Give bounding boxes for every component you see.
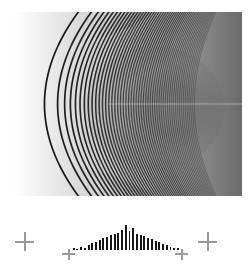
- spectrum-bar: [106, 237, 108, 250]
- moire-ring-artifact: [85, 46, 225, 170]
- spectrum-bar: [95, 242, 97, 250]
- spectrum-bar-chart-panel: [0, 214, 252, 264]
- spectrum-bar: [151, 239, 153, 250]
- spectrum-bar: [166, 245, 168, 250]
- right-axis-endcap-tick: [181, 249, 183, 260]
- spectrum-bar: [147, 238, 149, 250]
- cross-vertical-stroke: [207, 232, 209, 251]
- spectrum-bar: [143, 236, 145, 250]
- spectrum-bar: [73, 248, 75, 250]
- spectrum-bar: [136, 234, 138, 250]
- spectrum-bar: [80, 247, 82, 250]
- spectrum-bar: [162, 244, 164, 250]
- spectrum-bar: [99, 240, 101, 250]
- fringe-pattern-panel: [13, 12, 242, 196]
- spectrum-bar: [91, 243, 93, 250]
- left-axis-endcap-tick: [68, 249, 70, 260]
- spectrum-bar: [125, 225, 127, 250]
- spectrum-bars-container: [72, 214, 180, 264]
- right-fiducial-cross-icon: [198, 232, 217, 251]
- spectrum-bar: [170, 247, 172, 250]
- figure-root: [0, 0, 252, 267]
- spectrum-bar: [173, 248, 175, 250]
- spectrum-bar: [84, 248, 86, 250]
- cross-vertical-stroke: [24, 232, 26, 251]
- fringe-pattern-image: [13, 12, 242, 196]
- spectrum-bar: [158, 242, 160, 250]
- left-fiducial-cross-icon: [15, 232, 34, 251]
- spectrum-bar: [117, 233, 119, 250]
- spectrum-bar: [177, 248, 179, 250]
- spectrum-bar: [155, 241, 157, 250]
- spectrum-bar: [114, 234, 116, 250]
- spectrum-bar: [110, 235, 112, 250]
- spectrum-bar: [88, 245, 90, 250]
- spectrum-bar: [132, 228, 134, 250]
- spectrum-bar: [76, 249, 78, 250]
- spectrum-bar: [140, 235, 142, 250]
- spectrum-bar: [102, 238, 104, 250]
- spectrum-bar: [121, 230, 123, 250]
- spectrum-bar: [129, 231, 131, 250]
